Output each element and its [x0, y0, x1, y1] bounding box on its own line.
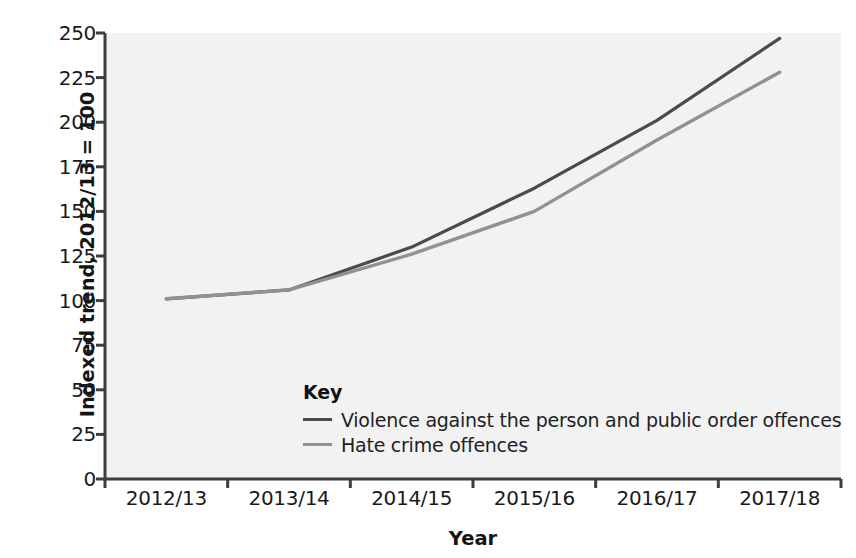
x-tick-label: 2013/14 — [249, 486, 330, 510]
x-tick-label: 2016/17 — [617, 486, 698, 510]
x-tick-label: 2012/13 — [126, 486, 207, 510]
x-axis-title: Year — [105, 527, 841, 550]
legend-swatch — [303, 418, 332, 421]
legend-item: Violence against the person and public o… — [303, 407, 841, 432]
legend-items: Violence against the person and public o… — [303, 407, 841, 457]
legend-item: Hate crime offences — [303, 432, 841, 457]
chart-legend: Key Violence against the person and publ… — [303, 381, 841, 457]
legend-title: Key — [303, 381, 841, 403]
chart-figure: Indexed trend, 2012/13 = 100 02550751001… — [0, 0, 856, 558]
legend-swatch — [303, 443, 332, 446]
legend-item-label: Hate crime offences — [341, 434, 528, 456]
x-tick-label: 2017/18 — [739, 486, 820, 510]
x-tick-label: 2015/16 — [494, 486, 575, 510]
legend-item-label: Violence against the person and public o… — [341, 409, 841, 431]
x-tick-label: 2014/15 — [371, 486, 452, 510]
plot-area — [0, 0, 856, 558]
